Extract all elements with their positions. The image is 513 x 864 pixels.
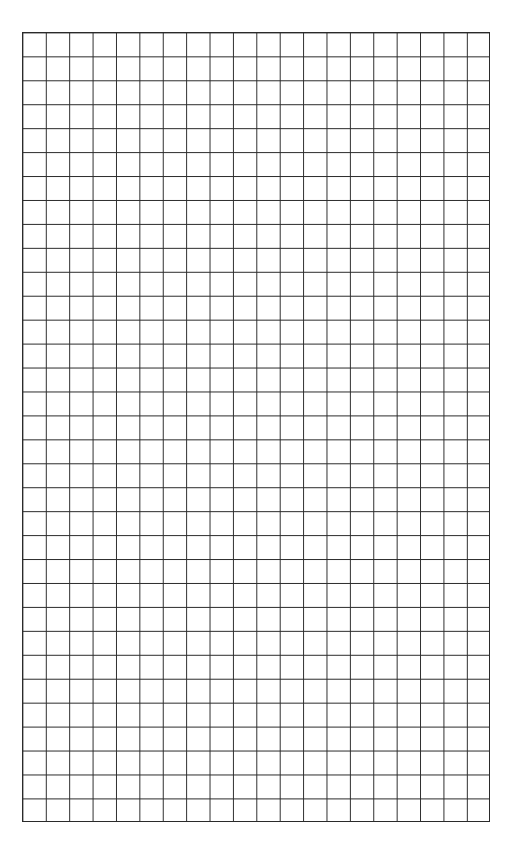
graph-paper-grid [22,32,490,822]
